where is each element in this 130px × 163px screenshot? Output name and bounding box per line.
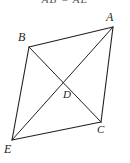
vertex-label-E: E: [4, 143, 11, 155]
geometry-figure: AB = AE A B C E D: [0, 0, 130, 163]
vertex-label-D: D: [63, 89, 71, 100]
side-CA: [101, 27, 113, 122]
vertex-label-A: A: [106, 11, 113, 23]
vertex-label-C: C: [97, 124, 104, 135]
vertex-label-B: B: [18, 31, 25, 43]
diagonal-BC: [29, 47, 101, 122]
side-BE: [12, 47, 29, 140]
side-AB: [29, 27, 113, 47]
quadrilateral-diagram-svg: [0, 0, 130, 163]
